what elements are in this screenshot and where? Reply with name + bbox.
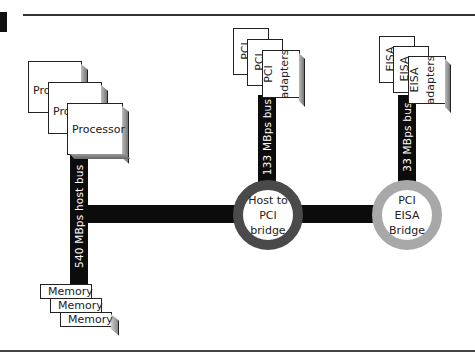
- pci-adapter-label-line2: adapters: [279, 49, 291, 99]
- memory-label: Memory: [48, 285, 93, 298]
- top-rule: [23, 14, 475, 16]
- bridge-label-line: Host to: [248, 194, 288, 207]
- bridge-label-line: EISA: [395, 209, 420, 222]
- host-bus: 540 MBps host bus: [70, 150, 88, 290]
- host-to-pci-bridge-label: Host to PCI bridge: [248, 193, 288, 238]
- section-marker: [0, 12, 7, 32]
- bridge-label-line: PCI: [259, 209, 277, 222]
- memory-label: Memory: [58, 299, 103, 312]
- bottom-rule: [0, 350, 475, 352]
- bridge-label-line: bridge: [250, 224, 285, 237]
- processor-card: Processor: [67, 103, 123, 155]
- eisa-adapter-label-line1: EISA: [409, 60, 421, 100]
- memory-card: Memory: [60, 312, 112, 327]
- pci-bus: 133 MBps bus: [258, 95, 276, 185]
- memory-card: Memory: [40, 284, 92, 299]
- processor-label: Processor: [72, 123, 125, 136]
- pci-eisa-bridge: PCI EISA Bridge: [372, 180, 442, 250]
- pci-adapter-card: PCI adapters: [262, 50, 300, 98]
- host-bus-label: 540 MBps host bus: [73, 168, 85, 268]
- eisa-bus: 33 MBps bus: [398, 95, 416, 185]
- pci-eisa-bridge-label: PCI EISA Bridge: [389, 193, 425, 238]
- eisa-bus-label: 33 MBps bus: [401, 97, 413, 177]
- host-to-pci-bridge: Host to PCI bridge: [233, 180, 303, 250]
- bridge-label-line: Bridge: [389, 224, 425, 237]
- card-shadow: [299, 53, 305, 107]
- eisa-adapter-label-line2: adapters: [425, 55, 437, 105]
- eisa-adapter-card: EISA adapters: [408, 56, 446, 104]
- pci-adapter-label-line1: PCI: [263, 54, 275, 94]
- bridge-label-line: PCI: [398, 194, 416, 207]
- card-bottom-shadow: [70, 154, 130, 159]
- pci-bus-label: 133 MBps bus: [261, 97, 273, 177]
- card-shadow: [445, 59, 451, 113]
- memory-label: Memory: [68, 313, 113, 326]
- memory-card: Memory: [50, 298, 102, 313]
